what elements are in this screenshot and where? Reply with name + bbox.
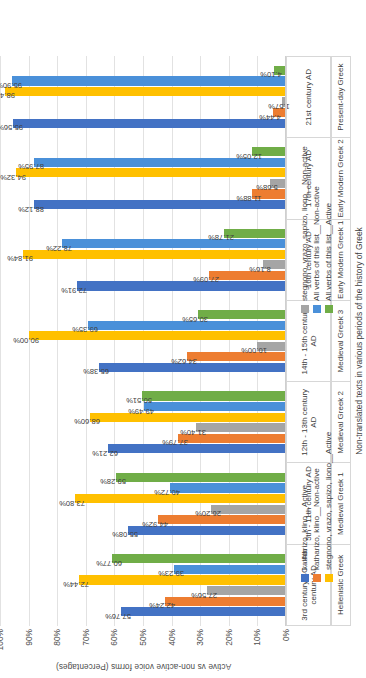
bar: 90.00% [29,331,286,340]
category-axis-row-stage: Hellenistic GreekMedieval Greek 1Medieva… [330,56,351,626]
bar: 95.90% [12,76,286,85]
bar-data-label: 72.91% [60,286,90,295]
plot-area: 57.76%42.24%27.56%72.44%39.23%60.77%55.0… [0,56,286,626]
bar: 60.77% [112,554,286,563]
bar: 5.68% [270,179,286,188]
bar-group: 72.91%27.09%8.16%91.84%78.22%21.78% [0,219,286,300]
bar: 62.21% [108,444,286,453]
bar-data-label: 27.09% [191,275,221,284]
bar-data-label: 65.38% [81,367,111,376]
bar: 21.78% [224,229,286,238]
y-axis-tick-label: 10% [252,629,262,646]
bar-data-label: 10.00% [240,346,270,355]
bar: 8.16% [263,260,286,269]
bar-groups: 57.76%42.24%27.56%72.44%39.23%60.77%55.0… [0,56,286,626]
bar-data-label: 69.35% [70,325,100,334]
legend-item[interactable]: All verbs of this list__Active [324,62,333,313]
bar-data-label: 37.79% [160,438,190,447]
bar: 42.24% [165,597,286,606]
legend-item[interactable]: stegnono, vrazo, sapizo, liono__Non-acti… [300,62,309,313]
legend-label: katharizo, klino__Non-active [312,468,321,570]
bar: 40.72% [170,483,286,492]
bar-data-label: 49.49% [127,407,157,416]
bar: 31.40% [196,423,286,432]
bar-data-label: 88.12% [16,205,46,214]
bar: 27.56% [207,586,286,595]
y-axis-tick-label: 0% [281,629,291,641]
y-axis-tick-label: 50% [138,629,148,646]
bar: 10.00% [257,342,286,351]
legend-item[interactable]: katharizo, klino__Non-active [312,331,321,582]
bar: 59.28% [116,473,286,482]
y-axis-tick-label: 40% [167,629,177,646]
bar-group: 55.08%44.92%26.20%73.80%40.72%59.28% [0,463,286,544]
y-axis-tick-label: 20% [224,629,234,646]
bar: 12.05% [252,147,286,156]
legend-item[interactable]: katharizo, klino__Active [300,331,309,582]
bar-data-label: 40.72% [152,488,182,497]
bar-data-label: 98.43% [0,91,16,100]
bar-data-label: 30.65% [180,315,210,324]
bar-group: 65.38%34.62%10.00%90.00%69.35%30.65% [0,300,286,381]
bar: 30.65% [198,310,286,319]
y-axis-tick-label: 80% [52,629,62,646]
bar-data-label: 95.56% [0,123,25,132]
bar: 95.56% [13,119,286,128]
y-axis-tick-label: 30% [195,629,205,646]
y-axis-title: Active vs non-active voice forms (Percen… [0,658,286,674]
legend-swatch-icon [325,305,333,313]
y-axis-tick-label: 100% [0,629,5,650]
legend-label: All verbs of this list__Non-active [312,186,321,301]
category-label-stage: Medieval Greek 1 [331,462,351,543]
legend-swatch-icon [313,305,321,313]
bar-data-label: 91.84% [5,254,35,263]
legend-swatch-icon [325,574,333,582]
category-label-stage: Medieval Greek 2 [331,381,351,462]
category-label-stage: Present-day Greek [331,56,351,137]
bar-data-label: 68.60% [72,417,102,426]
bar: 26.20% [211,505,286,514]
bar: 94.32% [16,168,286,177]
bar: 78.22% [62,239,286,248]
bar-data-label: 21.78% [206,233,236,242]
bar-group: 62.21%37.79%31.40%68.60%49.49%50.51% [0,382,286,463]
chart-legend: katharizo, klino__Activestegnono, vrazo,… [300,62,333,582]
bar-data-label: 94.32% [0,173,28,182]
bar-data-label: 62.21% [90,449,120,458]
bar-data-label: 90.00% [11,336,41,345]
bar-data-label: 4.44% [258,113,284,122]
bar-data-label: 95.90% [0,81,24,90]
bar-data-label: 78.22% [44,244,74,253]
bar-data-label: 12.05% [234,152,264,161]
bar: 57.76% [121,607,286,616]
bar-data-label: 26.20% [193,509,223,518]
legend-swatch-icon [313,574,321,582]
bar-group: 95.56%4.44%1.57%98.43%95.90%4.10% [0,56,286,137]
bar-data-label: 73.80% [57,499,87,508]
bar-group: 57.76%42.24%27.56%72.44%39.23%60.77% [0,545,286,626]
bar-data-label: 60.77% [94,559,124,568]
bar: 50.51% [142,391,286,400]
legend-label: stegnono, vrazo, sapizo, liono__Active [324,432,333,570]
category-label-stage: Early Modern Greek 2 [331,137,351,218]
legend-item[interactable]: All verbs of this list__Non-active [312,62,321,313]
y-axis-title-text: Active vs non-active voice forms (Percen… [55,662,230,671]
category-label-stage: Hellenistic Greek [331,544,351,626]
y-axis-tick-label: 70% [81,629,91,646]
bar-data-label: 34.62% [169,357,199,366]
bar-data-label: 39.23% [156,569,186,578]
category-label-stage: Early Modern Greek 1 [331,219,351,300]
x-axis-title-text: Non-translated texts in various periods … [354,227,364,455]
y-axis-ticks: 0%10%20%30%40%50%60%70%80%90%100% [0,626,286,660]
chart-canvas: Active vs non-active voice forms (Percen… [0,0,366,678]
bar-data-label: 57.76% [103,612,133,621]
bar-data-label: 27.56% [189,591,219,600]
bar-data-label: 42.24% [147,601,177,610]
bar-data-label: 50.51% [124,396,154,405]
bar: 72.91% [77,281,286,290]
legend-item[interactable]: stegnono, vrazo, sapizo, liono__Active [324,331,333,582]
bar-data-label: 5.68% [254,183,280,192]
bar-data-label: 72.44% [61,580,91,589]
x-axis-title: Non-translated texts in various periods … [352,56,366,626]
bar: 34.62% [187,352,286,361]
